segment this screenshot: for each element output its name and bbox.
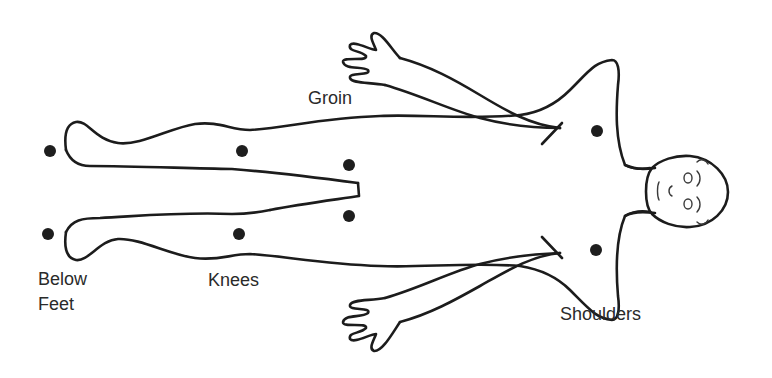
mouth: [658, 182, 660, 200]
marker-below-feet-upper: [44, 145, 56, 157]
head-outline: [646, 156, 728, 227]
upper-leg-inner-outline: [66, 150, 358, 183]
label-below: Below: [38, 267, 87, 291]
eye-upper: [684, 173, 692, 183]
label-groin: Groin: [308, 86, 352, 110]
crotch-outline: [270, 183, 359, 210]
marker-knee-upper: [236, 145, 248, 157]
upper-hand-outline: [343, 33, 400, 85]
brow-upper: [697, 171, 700, 186]
body-diagram: Groin Below Feet Knees Shoulders: [0, 0, 772, 378]
marker-below-feet-lower: [42, 228, 54, 240]
marker-knee-lower: [233, 228, 245, 240]
brow-lower: [697, 197, 700, 212]
body-outline-illustration: [0, 0, 772, 378]
marker-shoulder-upper: [591, 125, 603, 137]
marker-groin-upper: [343, 159, 355, 171]
eye-lower: [684, 199, 692, 209]
marker-shoulder-lower: [590, 244, 602, 256]
label-feet: Feet: [38, 292, 74, 316]
nose: [669, 186, 672, 196]
lower-hand-outline: [343, 298, 400, 351]
upper-body-outline: [65, 60, 650, 169]
label-shoulders: Shoulders: [560, 302, 641, 326]
marker-groin-lower: [343, 210, 355, 222]
label-knees: Knees: [208, 268, 259, 292]
